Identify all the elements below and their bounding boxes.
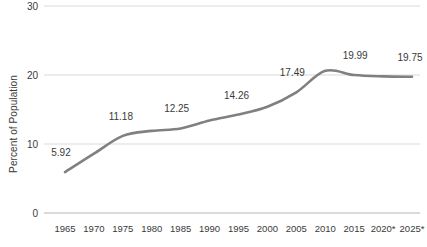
x-axis-tick-label: 1975 <box>112 223 133 234</box>
line-chart: Percent of Population 0102030 1965197019… <box>0 0 427 247</box>
x-axis-tick-label: 2010 <box>315 223 336 234</box>
x-axis-tick-label: 2005 <box>286 223 307 234</box>
y-axis-tick-label: 0 <box>12 208 38 219</box>
x-axis-tick-label: 2000 <box>257 223 278 234</box>
data-point-label: 17.49 <box>280 67 305 78</box>
x-axis-tick-label: 1965 <box>54 223 75 234</box>
x-axis-tick-label: 1970 <box>83 223 104 234</box>
data-point-label: 12.25 <box>164 103 189 114</box>
y-axis-tick-label: 20 <box>12 70 38 81</box>
x-axis-tick-label: 1985 <box>170 223 191 234</box>
data-point-label: 11.18 <box>109 110 133 121</box>
data-point-label: 14.26 <box>224 89 249 100</box>
x-axis-tick-label: 2015 <box>344 223 365 234</box>
x-axis-tick-label: 1995 <box>228 223 249 234</box>
x-axis-tick-label: 2025* <box>400 223 425 234</box>
data-point-label: 19.99 <box>343 50 368 61</box>
x-axis-tick-label: 2020* <box>371 223 396 234</box>
data-point-label: 5.92 <box>51 147 70 158</box>
y-axis-tick-label: 10 <box>12 139 38 150</box>
x-axis-tick-label: 1990 <box>199 223 220 234</box>
gridlines <box>44 6 420 213</box>
x-axis-tick-label: 1980 <box>141 223 162 234</box>
y-axis-tick-label: 30 <box>12 1 38 12</box>
plot-area <box>0 0 427 247</box>
data-point-label: 19.75 <box>397 51 422 62</box>
